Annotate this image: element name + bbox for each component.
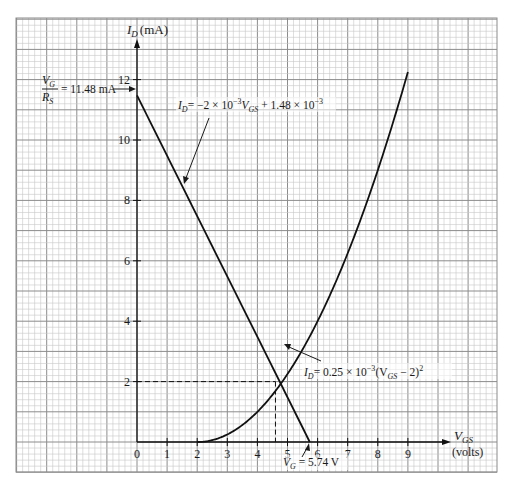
x-axis-label: VGS [454,428,473,445]
y-tick-label: 10 [118,133,130,147]
x-tick-label: 0 [134,447,140,461]
x-axis-arrow-icon [442,439,451,445]
rs-denominator: RS [41,90,53,106]
load-line [137,95,310,442]
x-tick-label: 4 [254,447,260,461]
y-tick-label: 2 [124,375,130,389]
y-tick-label: 8 [124,193,130,207]
arrow-head-icon [129,86,136,92]
vg-numerator: VG [42,73,55,89]
x-tick-label: 2 [194,447,200,461]
arrow-head-icon [183,176,189,184]
plot-series [137,72,408,442]
chart: 012345678924681012 ID(mA) VGS (volts) VG… [0,0,514,489]
vg-over-rs-value: = 11.48 mA [61,83,117,95]
transfer-curve-equation: ID= 0.25 × 10−3(VGS − 2)2 [284,344,452,381]
x-tick-label: 9 [405,447,411,461]
y-tick-label: 6 [124,254,130,268]
x-tick-label: 8 [375,447,381,461]
transfer-curve [197,72,408,442]
y-tick-label: 4 [124,314,130,328]
x-tick-label: 1 [164,447,170,461]
x-tick-label: 3 [224,447,230,461]
y-tick-label: 12 [118,73,130,87]
y-axis-label: ID(mA) [126,22,168,39]
x-axis-unit: (volts) [452,445,483,459]
